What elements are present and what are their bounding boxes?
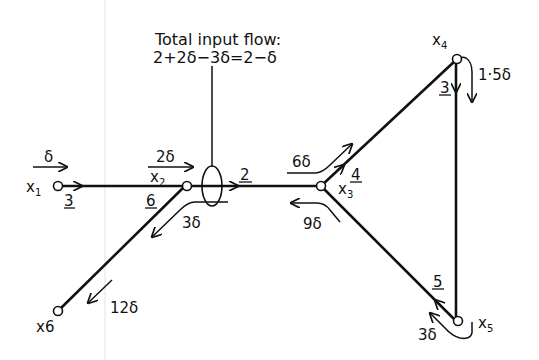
arrow-x5-x3-icon bbox=[435, 300, 446, 311]
edges bbox=[58, 60, 456, 321]
flow-label-out-of-x5: 3δ bbox=[418, 326, 437, 344]
label-x2: x2 bbox=[150, 168, 165, 188]
label-x6: x6 bbox=[36, 318, 54, 336]
flow-into-x6-icon bbox=[88, 280, 112, 303]
edge-x2-x6 bbox=[58, 186, 185, 311]
flow-labels: δ 2δ 3δ 12δ 6δ 9δ 1·5δ 3δ bbox=[44, 66, 511, 344]
flow-arrows bbox=[33, 57, 472, 338]
arrow-x3-x4-icon bbox=[334, 165, 344, 174]
node-x5 bbox=[454, 317, 463, 326]
node-x2 bbox=[183, 182, 192, 191]
label-x5: x5 bbox=[478, 314, 493, 334]
label-x4: x4 bbox=[432, 31, 447, 51]
annotation-line-2: 2+2δ−3δ=2−δ bbox=[153, 48, 277, 67]
flow-label-into-x2: 2δ bbox=[156, 148, 175, 166]
capacity-x2-x6: 6 bbox=[146, 192, 156, 210]
node-x1 bbox=[54, 182, 63, 191]
nodes bbox=[54, 55, 463, 326]
node-labels: x1 x2 x3 x4 x5 x6 bbox=[26, 31, 493, 336]
annotation-line-1: Total input flow: bbox=[154, 30, 281, 49]
flow-label-x2-to-x6: 3δ bbox=[182, 214, 201, 232]
label-x1: x1 bbox=[26, 178, 41, 198]
capacity-x1-x2: 3 bbox=[64, 192, 74, 210]
node-x6 bbox=[54, 307, 63, 316]
node-x3 bbox=[317, 182, 326, 191]
node-x4 bbox=[453, 55, 462, 64]
flow-label-into-x6: 12δ bbox=[110, 299, 138, 317]
total-input-flow-annotation: Total input flow: 2+2δ−3δ=2−δ bbox=[153, 30, 281, 206]
flow-label-into-x1: δ bbox=[44, 148, 53, 166]
flow-network-diagram: Total input flow: 2+2δ−3δ=2−δ bbox=[0, 0, 539, 360]
flow-label-x3-to-x4: 6δ bbox=[292, 153, 311, 171]
capacity-x3-x4: 4 bbox=[351, 166, 361, 184]
capacity-x2-x3: 2 bbox=[240, 166, 250, 184]
flow-label-x4-to-x5: 1·5δ bbox=[478, 66, 511, 84]
capacity-x4-x5: 3 bbox=[440, 79, 450, 97]
flow-label-x5-to-x3: 9δ bbox=[303, 215, 322, 233]
capacity-x5-x3: 5 bbox=[433, 273, 443, 291]
